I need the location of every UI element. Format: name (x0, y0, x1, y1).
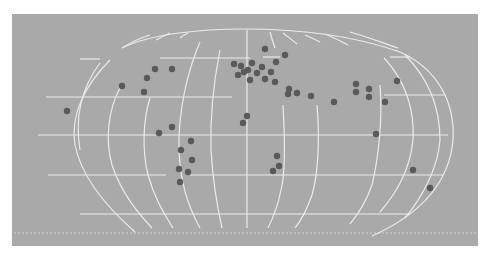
location-marker (353, 81, 359, 87)
location-marker (268, 69, 274, 75)
location-marker (231, 61, 237, 67)
location-marker (247, 77, 253, 83)
location-marker (64, 108, 70, 114)
location-marker (262, 46, 268, 52)
location-marker (144, 75, 150, 81)
location-marker (427, 185, 433, 191)
location-marker (188, 138, 194, 144)
world-map (0, 0, 488, 274)
location-marker (382, 99, 388, 105)
location-marker (259, 64, 265, 70)
location-marker (185, 169, 191, 175)
location-marker (272, 79, 278, 85)
location-marker (176, 166, 182, 172)
location-marker (373, 131, 379, 137)
location-marker (282, 52, 288, 58)
location-marker (152, 66, 158, 72)
location-marker (285, 91, 291, 97)
location-marker (169, 66, 175, 72)
location-marker (177, 179, 183, 185)
location-marker (276, 163, 282, 169)
location-marker (141, 89, 147, 95)
location-marker (249, 60, 255, 66)
location-marker (244, 113, 250, 119)
location-marker (308, 93, 314, 99)
map-panel (12, 14, 478, 246)
location-marker (410, 167, 416, 173)
location-marker (366, 86, 372, 92)
location-marker (254, 70, 260, 76)
location-marker (235, 72, 241, 78)
location-marker (274, 153, 280, 159)
location-marker (262, 76, 268, 82)
location-marker (294, 90, 300, 96)
location-marker (156, 130, 162, 136)
location-marker (394, 78, 400, 84)
location-marker (331, 99, 337, 105)
location-marker (119, 83, 125, 89)
location-marker (238, 63, 244, 69)
location-marker (366, 94, 372, 100)
location-marker (270, 168, 276, 174)
location-marker (189, 157, 195, 163)
location-marker (178, 147, 184, 153)
location-marker (273, 59, 279, 65)
location-marker (240, 120, 246, 126)
location-marker (241, 69, 247, 75)
location-marker (169, 124, 175, 130)
location-marker (353, 89, 359, 95)
